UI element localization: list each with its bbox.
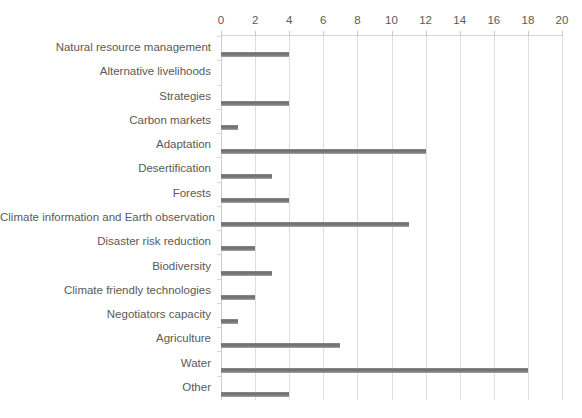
y-axis-tick-mark <box>217 85 221 86</box>
bar <box>221 198 289 203</box>
y-axis-category-labels: Natural resource managementAlternative l… <box>0 36 216 400</box>
bar-row <box>221 279 562 303</box>
y-axis-category-label: Adaptation <box>0 138 216 151</box>
gridline <box>562 36 563 400</box>
x-axis-tick-label: 12 <box>419 14 432 26</box>
y-axis-category-label: Biodiversity <box>0 260 216 273</box>
bar-row <box>221 182 562 206</box>
x-axis-tick-labels: 02468101214161820 <box>0 0 582 30</box>
y-axis-tick-mark <box>217 230 221 231</box>
bar-row <box>221 157 562 181</box>
y-axis-category-label: Carbon markets <box>0 114 216 127</box>
bar-row <box>221 36 562 60</box>
x-axis-tick-label: 16 <box>487 14 500 26</box>
bar <box>221 319 238 324</box>
y-axis-tick-mark <box>217 327 221 328</box>
y-axis-category-label: Agriculture <box>0 332 216 345</box>
bar-row <box>221 133 562 157</box>
bar <box>221 392 289 397</box>
bar <box>221 52 289 57</box>
bar-row <box>221 376 562 400</box>
y-axis-category-label: Forests <box>0 187 216 200</box>
y-axis-category-label: Strategies <box>0 90 216 103</box>
y-axis-category-label: Natural resource management <box>0 41 216 54</box>
y-axis-category-label: Desertification <box>0 162 216 175</box>
bar <box>221 246 255 251</box>
plot-area <box>221 36 562 400</box>
y-axis-tick-mark <box>217 279 221 280</box>
y-axis-category-label: Other <box>0 381 216 394</box>
y-axis-tick-mark <box>217 206 221 207</box>
y-axis-tick-mark <box>217 303 221 304</box>
y-axis-tick-mark <box>217 182 221 183</box>
y-axis-tick-mark <box>217 254 221 255</box>
bar-row <box>221 206 562 230</box>
bar-row <box>221 109 562 133</box>
bar-row <box>221 230 562 254</box>
bar <box>221 174 272 179</box>
bar <box>221 101 289 106</box>
bar <box>221 271 272 276</box>
bar <box>221 368 528 373</box>
bar-row <box>221 351 562 375</box>
bar-row <box>221 60 562 84</box>
x-axis-tick-label: 4 <box>286 14 292 26</box>
y-axis-category-label: Negotiators capacity <box>0 308 216 321</box>
bar <box>221 125 238 130</box>
bar <box>221 222 409 227</box>
y-axis-category-label: Alternative livelihoods <box>0 65 216 78</box>
y-axis-tick-mark <box>217 376 221 377</box>
bar-row <box>221 327 562 351</box>
x-axis-tick-label: 18 <box>521 14 534 26</box>
bar-row <box>221 85 562 109</box>
bar-chart: 02468101214161820 Natural resource manag… <box>0 0 582 418</box>
y-axis-category-label: Water <box>0 357 216 370</box>
y-axis-category-label: Disaster risk reduction <box>0 235 216 248</box>
x-axis-tick-label: 20 <box>556 14 569 26</box>
bar <box>221 295 255 300</box>
x-axis-tick-label: 8 <box>354 14 360 26</box>
x-axis-tick-label: 0 <box>218 14 224 26</box>
bar-row <box>221 254 562 278</box>
bar <box>221 149 426 154</box>
y-axis-tick-mark <box>217 36 221 37</box>
bar-row <box>221 303 562 327</box>
y-axis-tick-mark <box>217 351 221 352</box>
x-axis-tick-label: 2 <box>252 14 258 26</box>
y-axis-tick-mark <box>217 157 221 158</box>
x-axis-tick-label: 14 <box>453 14 466 26</box>
bar <box>221 343 340 348</box>
x-axis-tick-label: 6 <box>320 14 326 26</box>
x-axis-tick-label: 10 <box>385 14 398 26</box>
y-axis-tick-mark <box>217 60 221 61</box>
y-axis-tick-mark <box>217 109 221 110</box>
y-axis-category-label: Climate information and Earth observatio… <box>0 211 216 224</box>
y-axis-category-label: Climate friendly technologies <box>0 284 216 297</box>
y-axis-tick-mark <box>217 133 221 134</box>
